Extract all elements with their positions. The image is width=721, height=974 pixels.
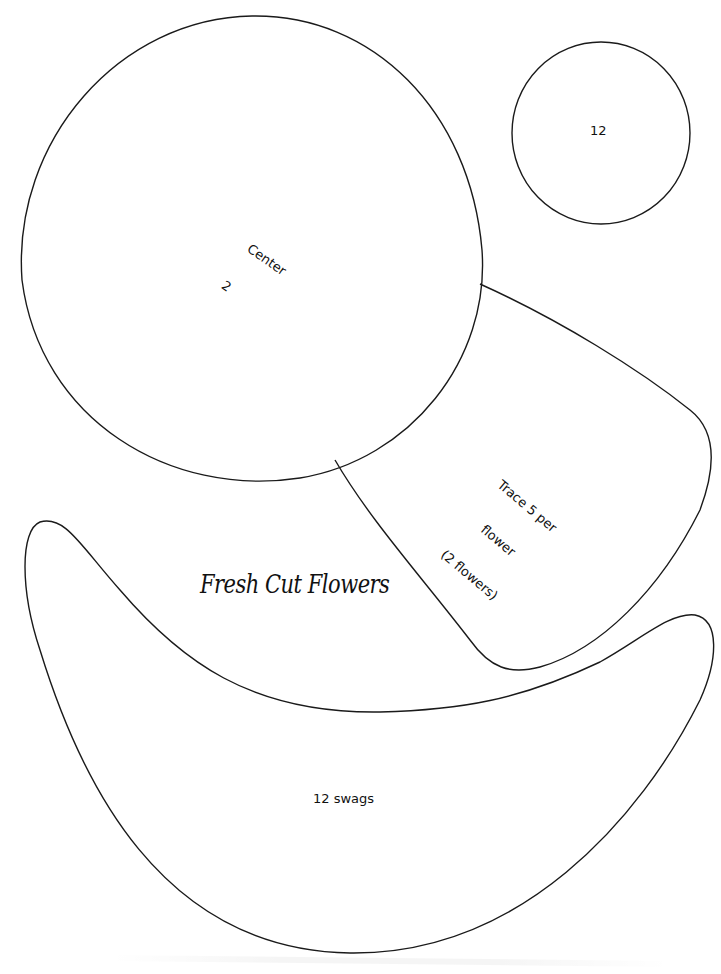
small-circle-label: 12	[590, 123, 607, 138]
template-shapes	[0, 0, 721, 974]
page-title: Fresh Cut Flowers	[200, 569, 389, 599]
center-count-text: 2	[219, 278, 263, 315]
petal-line-1: Trace 5 per	[495, 477, 560, 535]
center-label-text: Center	[245, 241, 289, 278]
petal-line-3: (2 flowers)	[437, 546, 502, 604]
petal-line-2: flower	[466, 511, 531, 569]
swag-label: 12 swags	[313, 791, 374, 806]
